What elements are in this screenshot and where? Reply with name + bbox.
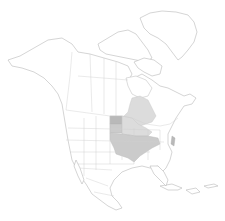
north-america-mainland [8, 38, 196, 210]
north-america-map [0, 0, 225, 221]
range-map [0, 0, 225, 221]
range-new-jersey [171, 136, 175, 146]
range-north-dakota [110, 116, 122, 124]
baffin-island [134, 58, 162, 76]
caribbean-islands [160, 184, 218, 194]
arctic-archipelago [98, 30, 152, 62]
range-south-dakota [110, 124, 122, 133]
